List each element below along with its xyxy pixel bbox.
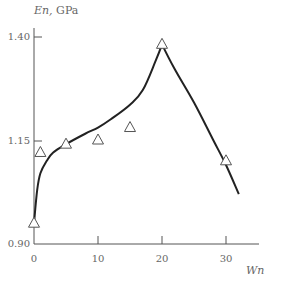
y-tick-label: 1.40: [8, 31, 30, 42]
triangle-marker-icon: [35, 146, 46, 156]
x-tick-label: 0: [31, 253, 37, 264]
y-axis-label-unit: GPa: [53, 4, 79, 17]
fit-line: [34, 44, 239, 223]
triangle-marker-icon: [61, 138, 72, 148]
triangle-marker-icon: [157, 38, 168, 48]
x-tick-label: 20: [156, 253, 169, 264]
y-axis-label-symbol: En,: [33, 4, 53, 17]
triangle-marker-icon: [125, 122, 136, 132]
data-markers: [29, 38, 232, 227]
fit-curve: [34, 44, 239, 223]
triangle-marker-icon: [93, 134, 104, 144]
x-tick-label: 30: [220, 253, 233, 264]
y-tick-label: 0.90: [8, 238, 30, 249]
x-axis-label: Wn: [246, 264, 264, 277]
chart: En, GPa 1.40 1.15 0.90 0 10 20 30 Wn: [0, 0, 283, 283]
x-tick-label: 10: [92, 253, 105, 264]
triangle-marker-icon: [29, 217, 40, 227]
y-axis-label: En, GPa: [33, 4, 79, 17]
y-tick-label: 1.15: [8, 135, 30, 146]
